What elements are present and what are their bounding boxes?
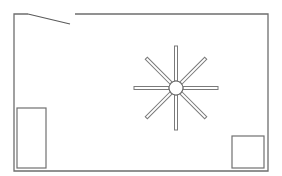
fan-blade (183, 87, 218, 90)
ceiling-fan-icon (134, 46, 218, 130)
room-walls (14, 14, 268, 171)
wall-left-top-segment (14, 14, 268, 171)
floor-plan (0, 0, 282, 176)
fan-blade (180, 92, 207, 119)
fan-blade (175, 46, 178, 81)
fan-blade (145, 92, 172, 119)
fan-blade (145, 57, 172, 84)
fan-blade (134, 87, 169, 90)
nightstand (232, 136, 264, 168)
fan-blade (175, 95, 178, 130)
fan-hub (169, 81, 183, 95)
door-leaf (28, 14, 70, 24)
bed (17, 108, 46, 168)
fan-blade (180, 57, 207, 84)
